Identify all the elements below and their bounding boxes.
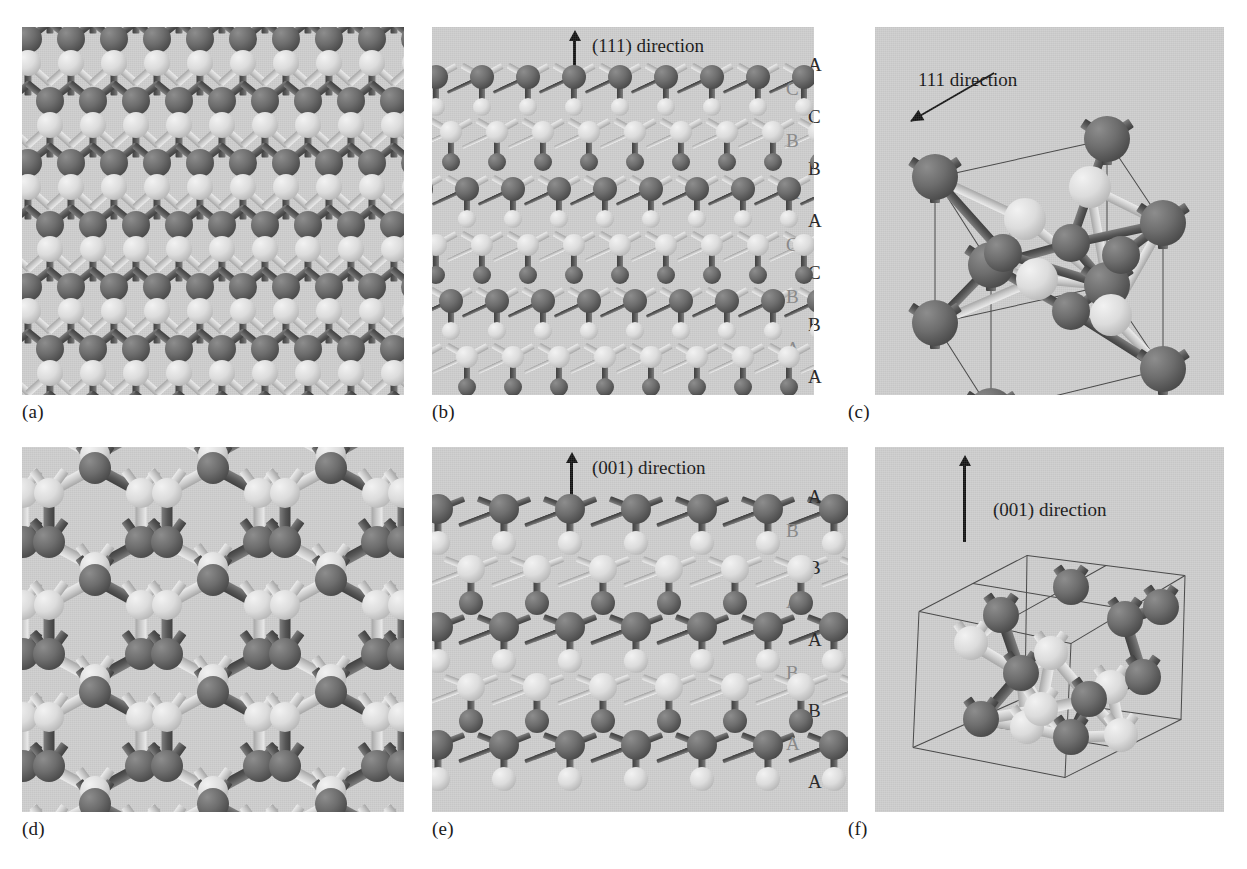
atom-dark <box>780 378 798 395</box>
atom-light <box>1016 258 1058 300</box>
atom-light <box>209 112 235 138</box>
atom-dark <box>596 378 614 395</box>
atom-dark <box>165 335 193 363</box>
atom-light <box>626 322 644 340</box>
atom-dark <box>626 153 644 171</box>
atom-dark <box>470 65 494 89</box>
atom-dark <box>272 149 300 177</box>
atom-light <box>756 767 780 791</box>
atom-light <box>252 360 278 386</box>
atom-light <box>563 234 585 256</box>
atom-dark <box>591 591 615 615</box>
atom-light <box>558 531 582 555</box>
bond <box>400 447 404 460</box>
atom-dark <box>165 87 193 115</box>
atom-light <box>558 649 582 673</box>
atom-light <box>58 298 84 324</box>
atom-dark <box>912 154 958 200</box>
atom-light <box>532 121 554 143</box>
atom-dark <box>753 612 783 642</box>
atom-dark <box>1053 569 1089 605</box>
atom-dark <box>197 564 229 596</box>
atom-dark <box>565 266 583 284</box>
atom-dark <box>79 452 111 484</box>
atom-dark <box>685 177 709 201</box>
atom-light <box>381 112 405 138</box>
stacking-label-inner: B <box>786 521 799 540</box>
atom-light <box>58 174 84 200</box>
atom-light <box>457 673 485 701</box>
atom-dark <box>229 273 257 301</box>
atom-dark <box>703 266 721 284</box>
atom-light <box>1104 718 1138 752</box>
atom-light <box>670 121 692 143</box>
atom-dark <box>715 289 739 313</box>
atom-light <box>80 112 106 138</box>
atom-dark <box>459 709 483 733</box>
atom-light <box>432 531 450 555</box>
atom-light <box>359 174 385 200</box>
atom-dark <box>642 378 660 395</box>
atom-dark <box>1053 719 1089 755</box>
atom-light <box>688 210 706 228</box>
atom-light <box>558 767 582 791</box>
atom-light <box>517 234 539 256</box>
atom-light <box>295 112 321 138</box>
atom-light <box>144 174 170 200</box>
atom-light <box>432 649 450 673</box>
atom-light <box>747 234 769 256</box>
atom-dark <box>79 676 111 708</box>
atom-light <box>123 236 149 262</box>
atom-light <box>187 174 213 200</box>
atom-dark <box>358 149 386 177</box>
atom-dark <box>723 591 747 615</box>
atom-dark <box>57 149 85 177</box>
atom-light <box>657 98 675 116</box>
atom-dark <box>1125 659 1161 695</box>
atom-dark <box>525 591 549 615</box>
atom-dark <box>432 612 453 642</box>
atom-dark <box>687 494 717 524</box>
atom-light <box>519 98 537 116</box>
atom-light <box>1004 198 1046 240</box>
atom-dark <box>251 335 279 363</box>
atom-light <box>166 236 192 262</box>
atom-dark <box>36 211 64 239</box>
atom-light <box>1069 166 1111 208</box>
atom-light <box>123 360 149 386</box>
atom-light <box>734 210 752 228</box>
atom-light <box>624 767 648 791</box>
atom-dark <box>672 153 690 171</box>
stacking-label-outer: A <box>808 211 822 230</box>
atom-dark <box>688 378 706 395</box>
atom-light <box>440 121 462 143</box>
atom-dark <box>1102 236 1140 274</box>
panel-f-unitcell-image: (001) direction <box>875 447 1224 812</box>
atom-light <box>37 360 63 386</box>
atom-dark <box>432 266 445 284</box>
atom-dark <box>591 709 615 733</box>
atom-dark <box>315 149 343 177</box>
atom-light <box>795 98 813 116</box>
atom-dark <box>36 87 64 115</box>
atom-dark <box>611 266 629 284</box>
atom-dark <box>488 153 506 171</box>
atom-light <box>703 98 721 116</box>
atom-light <box>1034 636 1068 670</box>
stacking-label-inner: B <box>786 131 799 150</box>
panel-c-unitcell-image: 111 direction <box>875 27 1224 395</box>
atom-light <box>655 673 683 701</box>
bond <box>239 804 262 812</box>
atom-dark <box>208 87 236 115</box>
atom-dark <box>550 378 568 395</box>
atom-light <box>338 112 364 138</box>
atom-dark <box>315 676 347 708</box>
atom-light <box>295 360 321 386</box>
atom-dark <box>489 612 519 642</box>
atom-dark <box>1140 346 1186 392</box>
panel-b-caption: (b) <box>432 401 455 423</box>
atom-light <box>209 360 235 386</box>
atom-light <box>550 210 568 228</box>
atom-dark <box>531 289 555 313</box>
atom-light <box>34 590 64 620</box>
